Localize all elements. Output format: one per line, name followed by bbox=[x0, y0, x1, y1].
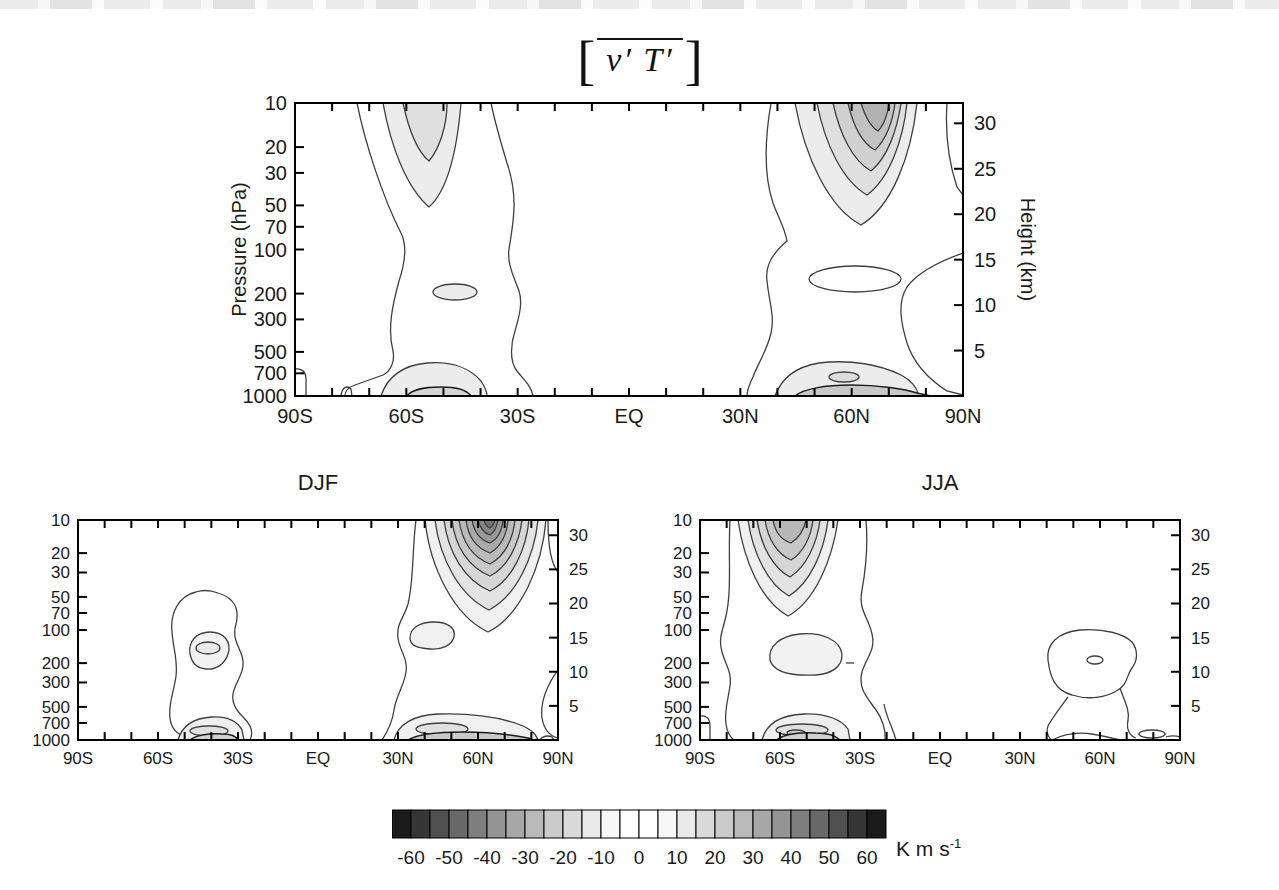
jja-contours bbox=[700, 520, 1180, 740]
tick-label: 25 bbox=[569, 560, 588, 579]
contour-region bbox=[1120, 688, 1136, 738]
contour-ellipse bbox=[809, 266, 901, 292]
tick-label: -20 bbox=[549, 847, 576, 868]
colorbar-cell bbox=[715, 810, 734, 838]
tick-label: 90N bbox=[542, 749, 573, 768]
tick-label: 90S bbox=[277, 405, 313, 427]
colorbar-cell bbox=[772, 810, 791, 838]
tick-label: 30N bbox=[722, 405, 759, 427]
tick-label: EQ bbox=[615, 405, 644, 427]
colorbar-cell bbox=[791, 810, 810, 838]
colorbar-cell bbox=[392, 810, 411, 838]
title-overbar-expression: v′ T′ bbox=[597, 38, 682, 85]
height-axis-title: Height (km) bbox=[1017, 198, 1039, 301]
jja-title: JJA bbox=[922, 470, 959, 495]
tick-label: 20 bbox=[1191, 594, 1210, 613]
panel-djf: DJF 102030507010020030050070010003025201… bbox=[10, 460, 650, 774]
tick-label: 10 bbox=[1191, 663, 1210, 682]
tick-label: 30 bbox=[1191, 526, 1210, 545]
contour-region bbox=[770, 634, 842, 676]
contour-region bbox=[382, 520, 416, 740]
djf-chart: DJF 102030507010020030050070010003025201… bbox=[10, 460, 650, 770]
tick-label: 20 bbox=[974, 203, 996, 225]
colorbar: -60-50-40-30-20-100102030405060 K m s-1 bbox=[392, 808, 1032, 880]
tick-label: 60S bbox=[765, 749, 795, 768]
annual-chart: Pressure (hPa) Height (km) 1020305070100… bbox=[230, 88, 1040, 438]
tick-label: 30S bbox=[223, 749, 253, 768]
contour-ellipse bbox=[433, 284, 477, 300]
tick-label: 25 bbox=[974, 158, 996, 180]
pressure-axis-title: Pressure (hPa) bbox=[230, 182, 250, 317]
panel-jja: JJA 102030507010020030050070010003025201… bbox=[632, 460, 1272, 774]
contour-region bbox=[747, 103, 787, 396]
contour-region bbox=[901, 253, 963, 395]
contour-ellipse bbox=[1087, 656, 1103, 664]
contour-region bbox=[548, 520, 558, 572]
tick-label: 60N bbox=[833, 405, 870, 427]
tick-label: 10 bbox=[51, 511, 70, 530]
tick-label: 200 bbox=[664, 654, 692, 673]
colorbar-unit-exponent: -1 bbox=[950, 836, 962, 851]
colorbar-cell bbox=[677, 810, 696, 838]
tick-label: 30 bbox=[569, 526, 588, 545]
figure-title: [ v′ T′ ] bbox=[520, 26, 760, 96]
colorbar-cell bbox=[639, 810, 658, 838]
tick-label: 30 bbox=[742, 847, 763, 868]
colorbar-cell bbox=[525, 810, 544, 838]
tick-label: 60 bbox=[856, 847, 877, 868]
tick-label: 500 bbox=[254, 341, 287, 363]
tick-label: 1000 bbox=[32, 731, 70, 750]
panel-annual: Pressure (hPa) Height (km) 1020305070100… bbox=[230, 88, 1040, 442]
colorbar-cell bbox=[449, 810, 468, 838]
tick-label: 0 bbox=[634, 847, 645, 868]
colorbar-cell bbox=[544, 810, 563, 838]
tick-label: 20 bbox=[704, 847, 725, 868]
tick-label: 50 bbox=[818, 847, 839, 868]
jja-chart: JJA 102030507010020030050070010003025201… bbox=[632, 460, 1272, 770]
tick-label: -60 bbox=[397, 847, 424, 868]
contour-region bbox=[1047, 697, 1068, 740]
tick-label: 30 bbox=[673, 563, 692, 582]
tick-label: 15 bbox=[569, 629, 588, 648]
contour-region bbox=[410, 622, 454, 649]
colorbar-cell bbox=[867, 810, 886, 838]
contour-ellipse bbox=[1139, 730, 1165, 738]
tick-label: 15 bbox=[1191, 629, 1210, 648]
tick-label: 40 bbox=[780, 847, 801, 868]
annual-contours bbox=[295, 103, 963, 396]
tick-label: 90N bbox=[1164, 749, 1195, 768]
title-left-bracket: [ bbox=[577, 31, 595, 91]
tick-label: 300 bbox=[254, 308, 287, 330]
figure-page: { "title": {"left_bracket": "[", "expres… bbox=[0, 0, 1279, 890]
contour-ellipse bbox=[196, 642, 220, 654]
colorbar-cell bbox=[468, 810, 487, 838]
colorbar-cell bbox=[601, 810, 620, 838]
tick-label: 700 bbox=[254, 362, 287, 384]
axis-tick-labels: 1020305070100200300500700100030252015105… bbox=[654, 511, 1210, 768]
colorbar-cell bbox=[430, 810, 449, 838]
colorbar-cell bbox=[829, 810, 848, 838]
tick-label: 5 bbox=[1191, 697, 1200, 716]
tick-label: 10 bbox=[569, 663, 588, 682]
colorbar-cell bbox=[753, 810, 772, 838]
colorbar-cell bbox=[620, 810, 639, 838]
colorbar-cells bbox=[392, 810, 886, 838]
tick-label: 60S bbox=[143, 749, 173, 768]
tick-label: 5 bbox=[974, 340, 985, 362]
tick-label: 10 bbox=[666, 847, 687, 868]
tick-label: 5 bbox=[569, 697, 578, 716]
tick-label: 90S bbox=[685, 749, 715, 768]
tick-label: 30 bbox=[974, 112, 996, 134]
tick-label: 30S bbox=[845, 749, 875, 768]
colorbar-cell bbox=[506, 810, 525, 838]
contour-region bbox=[700, 716, 710, 740]
tick-label: 1000 bbox=[243, 385, 288, 407]
scan-artifact-band bbox=[0, 0, 1279, 9]
contour-ellipse bbox=[829, 372, 859, 382]
colorbar-cell bbox=[487, 810, 506, 838]
tick-label: -50 bbox=[435, 847, 462, 868]
tick-label: -30 bbox=[511, 847, 538, 868]
tick-label: 20 bbox=[265, 136, 287, 158]
tick-label: 50 bbox=[265, 194, 287, 216]
tick-label: 10 bbox=[265, 92, 287, 114]
